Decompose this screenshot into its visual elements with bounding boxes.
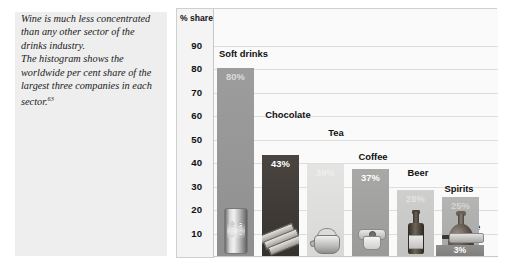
y-tick-10: 10 [178, 229, 202, 239]
bar-label-soft-drinks: Soft drinks [219, 48, 265, 59]
y-axis-line [213, 9, 214, 258]
bar-label-beer: Beer [391, 167, 445, 178]
y-tick-40: 40 [178, 158, 202, 168]
bar-wine[interactable]: 3% [436, 245, 484, 256]
bar-wine-group[interactable]: 3% [436, 245, 490, 256]
bar-soft-drinks[interactable]: 80% Coca-Cola [217, 68, 254, 256]
bar-label-chocolate: Chocolate [251, 109, 325, 120]
bar-beer[interactable]: 28% [397, 190, 434, 256]
bar-label-soft-drinks-text: Soft drinks [219, 48, 268, 59]
y-tick-60: 60 [178, 111, 202, 121]
gridline-80 [213, 69, 498, 70]
gridline-70 [213, 93, 498, 94]
y-tick-20: 20 [178, 205, 202, 215]
x-axis-baseline [213, 256, 498, 257]
beer-bottle-icon [408, 212, 424, 254]
figure-root: Wine is much less concentrated than any … [0, 0, 512, 268]
bar-label-spirits: Spirits [431, 183, 487, 194]
y-tick-90: 90 [178, 41, 202, 51]
kettle-icon [312, 228, 340, 254]
wine-bottle-icon [442, 233, 482, 241]
chocolate-bars-icon [262, 228, 299, 254]
bar-value-tea: 39% [307, 167, 344, 178]
bar-label-coffee: Coffee [345, 151, 401, 162]
gridline-90 [213, 46, 498, 47]
bar-chocolate[interactable]: 43% [262, 155, 299, 256]
bar-coffee[interactable]: 37% [352, 169, 389, 256]
gridline-40 [213, 163, 498, 164]
caption-paragraph-2-text: The histogram shows the worldwide per ce… [21, 53, 152, 108]
caption-footnote-marker: 63 [48, 95, 54, 102]
gridline-50 [213, 140, 498, 141]
histogram-chart: % share 90 80 70 60 50 40 30 20 10 Soft … [176, 8, 497, 258]
bar-label-tea: Tea [313, 127, 359, 138]
caption-paragraph-1: Wine is much less concentrated than any … [15, 12, 167, 52]
coffee-machine-icon [354, 228, 388, 254]
bar-value-wine: 3% [436, 245, 484, 256]
y-tick-50: 50 [178, 135, 202, 145]
bar-value-spirits: 25% [442, 200, 479, 211]
caption-panel: Wine is much less concentrated than any … [15, 12, 167, 256]
cola-can-icon: Coca-Cola [224, 208, 248, 254]
bar-value-beer: 28% [397, 193, 434, 204]
bar-value-coffee: 37% [352, 172, 389, 183]
y-tick-70: 70 [178, 88, 202, 98]
y-tick-80: 80 [178, 64, 202, 74]
bar-tea[interactable]: 39% [307, 164, 344, 256]
bar-value-chocolate: 43% [262, 158, 299, 169]
y-axis-title: % share [180, 13, 213, 23]
bar-value-soft-drinks: 80% [217, 71, 254, 82]
cola-can-script: Coca-Cola [228, 218, 244, 240]
caption-paragraph-2: The histogram shows the worldwide per ce… [15, 52, 167, 109]
y-tick-30: 30 [178, 182, 202, 192]
